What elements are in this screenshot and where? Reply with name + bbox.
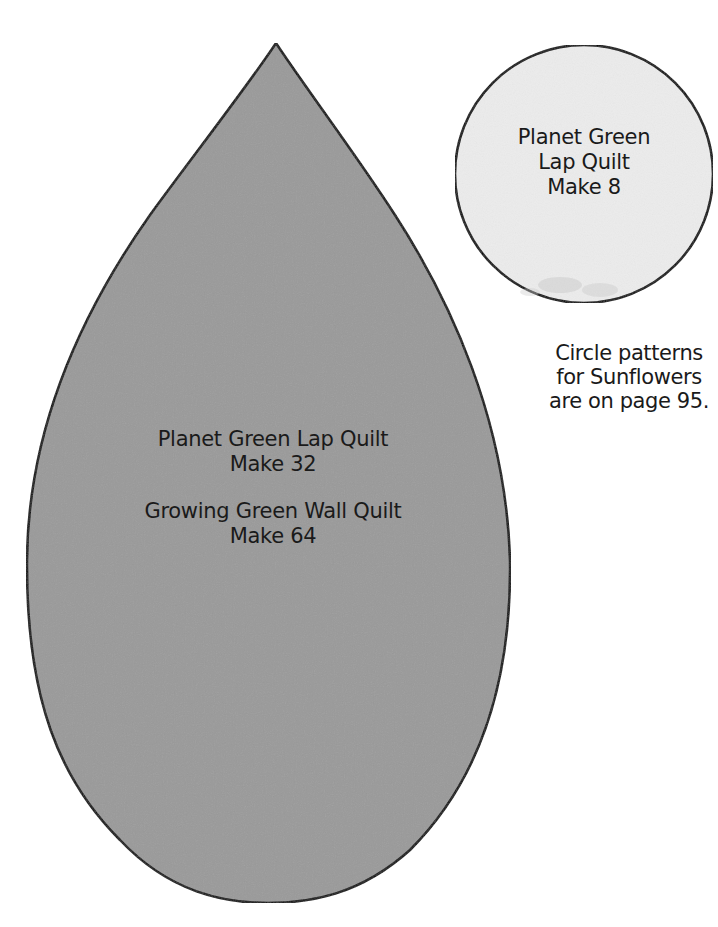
teardrop-label-line-4: Make 64 — [118, 524, 428, 549]
teardrop-label-line-1: Planet Green Lap Quilt — [118, 427, 428, 452]
note-line-2: for Sunflowers — [540, 365, 718, 389]
note-line-1: Circle patterns — [540, 341, 718, 365]
circle-label-line-2: Lap Quilt — [484, 150, 684, 175]
circle-label: Planet Green Lap Quilt Make 8 — [484, 125, 684, 200]
circle-label-line-1: Planet Green — [484, 125, 684, 150]
teardrop-label: Planet Green Lap Quilt Make 32 Growing G… — [118, 427, 428, 549]
circle-label-line-3: Make 8 — [484, 175, 684, 200]
teardrop-label-spacer — [118, 477, 428, 499]
page-reference-note: Circle patterns for Sunflowers are on pa… — [540, 341, 718, 413]
note-line-3: are on page 95. — [540, 389, 718, 413]
teardrop-label-line-2: Make 32 — [118, 452, 428, 477]
teardrop-label-line-3: Growing Green Wall Quilt — [118, 499, 428, 524]
